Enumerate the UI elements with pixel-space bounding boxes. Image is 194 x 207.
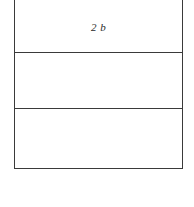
divider-line-2 [14,108,183,109]
figure-canvas: 2 b [0,0,194,207]
top-band-label: 2 b [14,21,183,33]
divider-line-1 [14,52,183,53]
